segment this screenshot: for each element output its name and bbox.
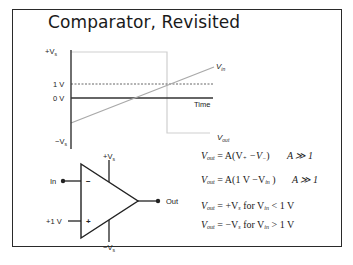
output-terminal (156, 199, 160, 203)
vin-ramp (71, 67, 214, 123)
noninverting-sign: + (86, 217, 91, 226)
label-vin: Vin (216, 62, 225, 72)
equation-general-cond: A ≫ 1 (287, 150, 313, 161)
timing-plot: +Vs 1 V 0 V −Vs Vin Time Vout (45, 47, 230, 149)
opamp-circuit: − + In +1 V Out +Vs −Vs (46, 152, 179, 253)
equation-substituted: Vout = A(1 V −Vin ) (201, 174, 276, 185)
label-minus-vs: −Vs (55, 137, 67, 147)
input-terminal (61, 179, 65, 183)
label-supply-pos: +Vs (103, 152, 115, 162)
equation-high-input: Vout = −Vs for Vin > 1 V (201, 219, 294, 230)
label-plus-vs: +Vs (45, 47, 57, 57)
equation-low-input: Vout = +Vs for Vin < 1 V (201, 200, 294, 211)
inverting-sign: − (86, 177, 91, 186)
label-time: Time (194, 100, 210, 109)
vout-waveform (71, 52, 210, 133)
label-out: Out (166, 197, 179, 206)
label-vout: Vout (217, 133, 230, 143)
label-supply-neg: −Vs (103, 243, 115, 253)
equation-substituted-cond: A ≫ 1 (292, 174, 318, 185)
label-0v: 0 V (53, 94, 64, 103)
label-in: In (50, 177, 56, 186)
label-ref-1v: +1 V (46, 217, 62, 226)
equation-general: Vout = A(V+ −V−) (201, 150, 269, 161)
comparator-diagram: +Vs 1 V 0 V −Vs Vin Time Vout − + I (0, 0, 353, 265)
label-1v: 1 V (53, 80, 64, 89)
